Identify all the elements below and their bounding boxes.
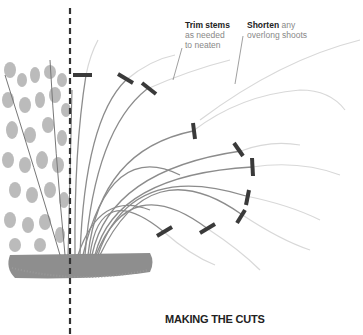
soil (8, 253, 152, 278)
pruning-illustration (0, 0, 363, 335)
faded-shoots (86, 40, 360, 270)
cut-mark-icon (118, 74, 133, 83)
trim-annotation: Trim stems as needed to neaten (185, 20, 230, 50)
shorten-annotation: Shorten any overlong shoots (247, 20, 307, 40)
cut-mark-icon (193, 123, 195, 139)
shrub-foliage (2, 62, 71, 252)
cut-mark-icon (252, 158, 253, 176)
cut-mark-icon (234, 143, 243, 156)
cut-mark-icon (142, 83, 156, 94)
caption-title: MAKING THE CUTS (165, 313, 265, 325)
cut-mark-icon (246, 190, 249, 205)
cut-marks (73, 74, 253, 236)
